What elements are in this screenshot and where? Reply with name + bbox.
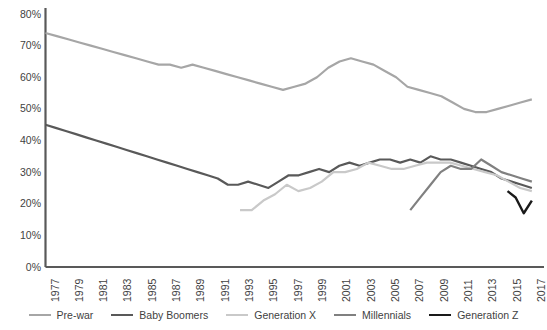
legend-swatch-icon [29,314,51,316]
legend-item[interactable]: Baby Boomers [111,309,208,321]
x-tick-label: 2003 [366,279,377,302]
legend-swatch-icon [429,314,451,316]
legend-swatch-icon [226,314,248,316]
legend-swatch-icon [334,314,356,316]
legend-label: Millennials [362,309,411,321]
legend-item[interactable]: Generation Z [429,309,518,321]
x-tick-label: 1993 [244,279,255,302]
x-tick-label: 1983 [122,279,133,302]
x-tick-label: 1997 [293,279,304,302]
x-tick-label: 2001 [341,279,352,302]
legend-swatch-icon [111,314,133,316]
x-tick-label: 1977 [50,279,61,302]
x-tick-label: 2013 [487,279,498,302]
chart-legend: Pre-warBaby BoomersGeneration XMillennia… [0,304,547,326]
x-tick-label: 2017 [536,279,547,302]
legend-label: Generation X [254,309,316,321]
x-tick-label: 1989 [195,279,206,302]
x-tick-label: 2005 [390,279,401,302]
x-tick-label: 2007 [414,279,425,302]
series-line [46,33,532,112]
legend-label: Baby Boomers [139,309,208,321]
x-tick-label: 1991 [220,279,231,302]
x-tick-label: 1995 [268,279,279,302]
x-tick-label: 1981 [98,279,109,302]
series-line [240,163,532,210]
legend-item[interactable]: Pre-war [29,309,94,321]
x-tick-label: 1999 [317,279,328,302]
x-tick-label: 2011 [463,279,474,302]
axis-lines [46,8,545,267]
x-tick-label: 1985 [147,279,158,302]
x-tick-label: 1979 [74,279,85,302]
legend-item[interactable]: Millennials [334,309,411,321]
series-lines [46,33,532,213]
legend-label: Pre-war [57,309,94,321]
series-line [46,125,532,188]
x-tick-label: 2015 [512,279,523,302]
x-tick-label: 1987 [171,279,182,302]
legend-item[interactable]: Generation X [226,309,316,321]
x-tick-label: 2009 [439,279,450,302]
legend-label: Generation Z [457,309,518,321]
series-line [508,191,532,213]
line-chart: 0%10%20%30%40%50%60%70%80% 1977197919811… [0,0,547,330]
